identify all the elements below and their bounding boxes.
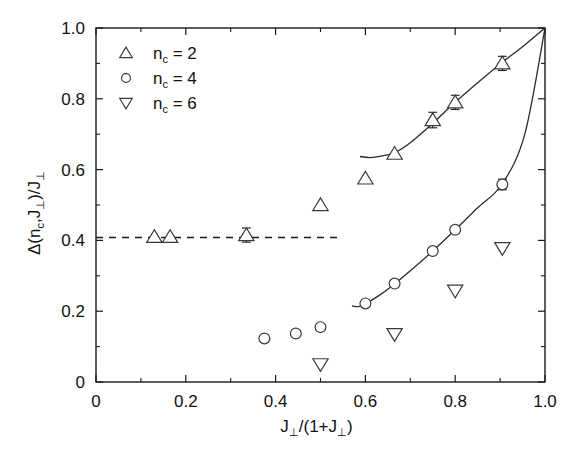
legend-triangle-down-icon [120, 98, 133, 108]
y-tick-label: 0 [76, 373, 85, 392]
series-1-markers [147, 56, 510, 242]
x-tick-label: 1.0 [533, 392, 557, 411]
legend: nc = 2nc = 4nc = 6 [120, 44, 197, 115]
legend-circle-icon [122, 74, 131, 83]
fit-curve-1 [360, 28, 545, 158]
legend-label: nc = 2 [153, 44, 197, 65]
x-tick-label: 0 [91, 392, 100, 411]
legend-label: nc = 4 [153, 69, 197, 90]
x-axis-title: J⊥/(1+J⊥) [280, 417, 352, 438]
scatter-plot: 00.20.40.60.81.000.20.40.60.81.0 J⊥/(1+J… [0, 0, 579, 471]
y-axis-title: Δ(nc,J⊥)/J⊥ [25, 171, 46, 255]
legend-entry-2: nc = 4 [122, 69, 197, 90]
x-tick-label: 0.6 [354, 392, 378, 411]
series-2-markers [259, 179, 508, 344]
x-tick-label: 0.8 [443, 392, 467, 411]
y-tick-label: 1.0 [61, 19, 85, 38]
y-tick-label: 0.4 [61, 231, 85, 250]
x-tick-label: 0.4 [264, 392, 288, 411]
legend-label: nc = 6 [153, 94, 197, 115]
tick-labels: 00.20.40.60.81.000.20.40.60.81.0 [61, 19, 556, 411]
legend-entry-1: nc = 2 [120, 44, 197, 65]
fit-curves [352, 28, 545, 307]
y-tick-label: 0.8 [61, 90, 85, 109]
x-tick-label: 0.2 [174, 392, 198, 411]
y-tick-label: 0.2 [61, 302, 85, 321]
legend-triangle-up-icon [120, 47, 133, 57]
legend-entry-3: nc = 6 [120, 94, 197, 115]
figure-container: 00.20.40.60.81.000.20.40.60.81.0 J⊥/(1+J… [0, 0, 579, 471]
data-markers [147, 56, 510, 371]
fit-curve-2 [352, 28, 545, 307]
series-3-markers [313, 243, 510, 372]
y-tick-label: 0.6 [61, 161, 85, 180]
